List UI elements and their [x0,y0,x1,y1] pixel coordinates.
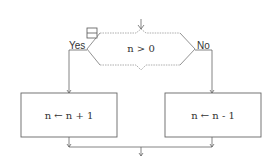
exit-arrow [139,147,143,156]
yes-process-text: n ← n + 1 [45,110,94,121]
entry-arrow [138,19,144,29]
collapse-toggle-icon[interactable] [87,28,97,38]
no-label: No [197,40,210,51]
merge-connector [67,137,214,147]
no-process-text: n ← n - 1 [191,110,235,121]
decision-condition: n > 0 [127,43,155,54]
yes-label: Yes [69,40,85,51]
flowchart-canvas: n > 0 Yes No n ← n + 1 n ← n - 1 [0,0,277,165]
